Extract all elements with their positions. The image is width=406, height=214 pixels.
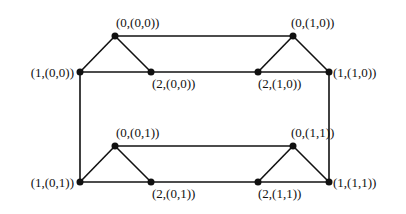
labels: (0,(0,0)) (1,(0,0)) (2,(0,0)) (0,(1,0)) … — [31, 15, 377, 201]
node-1-10 — [326, 69, 333, 76]
node-label: (0,(1,0)) — [291, 15, 334, 30]
node-2-10 — [255, 69, 262, 76]
node-2-00 — [148, 69, 155, 76]
node-0-11 — [290, 143, 297, 150]
node-label: (1,(1,1)) — [333, 175, 376, 190]
node-2-01 — [148, 179, 155, 186]
edge — [258, 36, 293, 72]
node-label: (0,(0,0)) — [116, 15, 159, 30]
edge — [293, 36, 329, 72]
edge — [293, 146, 329, 182]
node-2-11 — [255, 179, 262, 186]
nodes — [77, 33, 333, 186]
node-label: (0,(0,1)) — [116, 125, 159, 140]
node-label: (2,(1,0)) — [258, 76, 301, 91]
graph-diagram: (0,(0,0)) (1,(0,0)) (2,(0,0)) (0,(1,0)) … — [0, 0, 406, 214]
node-label: (2,(0,0)) — [152, 76, 195, 91]
node-label: (1,(0,1)) — [31, 175, 74, 190]
node-1-00 — [77, 69, 84, 76]
edge — [115, 36, 151, 72]
node-label: (2,(1,1)) — [258, 186, 301, 201]
edge — [80, 36, 115, 72]
edge — [258, 146, 293, 182]
node-1-01 — [77, 179, 84, 186]
node-label: (2,(0,1)) — [152, 186, 195, 201]
node-label: (1,(1,0)) — [333, 65, 376, 80]
node-0-00 — [112, 33, 119, 40]
node-0-01 — [112, 143, 119, 150]
node-1-11 — [326, 179, 333, 186]
node-label: (0,(1,1)) — [291, 125, 334, 140]
edge — [80, 146, 115, 182]
edge — [115, 146, 151, 182]
node-0-10 — [290, 33, 297, 40]
node-label: (1,(0,0)) — [31, 65, 74, 80]
edges — [80, 36, 329, 182]
